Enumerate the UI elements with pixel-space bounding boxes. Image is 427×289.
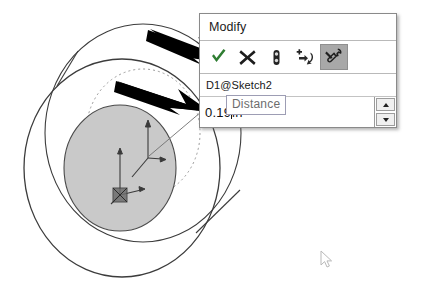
spinner-up-button[interactable] <box>376 98 395 111</box>
triangle-up-icon <box>383 103 389 107</box>
dialog-titlebar[interactable]: Modify <box>200 14 396 41</box>
dimension-name: D1@Sketch2 <box>206 79 272 91</box>
rebuild-icon <box>267 48 286 67</box>
accept-checkmark-button[interactable] <box>204 44 232 70</box>
checkmark-icon <box>209 48 228 67</box>
wrench-icon <box>324 47 344 67</box>
screenshot-root: Modify <box>0 0 427 289</box>
cancel-x-button[interactable] <box>233 44 261 70</box>
dialog-toolbar <box>200 41 396 74</box>
annotation-arrow-bottom <box>114 77 212 119</box>
rebuild-button[interactable] <box>262 44 290 70</box>
mouse-pointer-cursor <box>320 250 334 274</box>
cursor-arrow-icon <box>320 250 334 270</box>
cylinder-silhouette-lower <box>196 190 240 233</box>
spinner-down-button[interactable] <box>376 113 395 126</box>
close-x-icon <box>238 48 257 67</box>
dimension-name-row: D1@Sketch2 <box>200 74 396 97</box>
value-spinner[interactable] <box>374 97 396 127</box>
mark-for-drawing-button[interactable] <box>320 44 348 70</box>
spin-increment-icon <box>295 48 315 67</box>
triangle-down-icon <box>383 118 389 122</box>
reset-increment-button[interactable] <box>291 44 319 70</box>
distance-tooltip: Distance <box>226 95 286 115</box>
dialog-title: Modify <box>209 20 246 34</box>
cylinder-silhouette-upper <box>57 51 78 86</box>
